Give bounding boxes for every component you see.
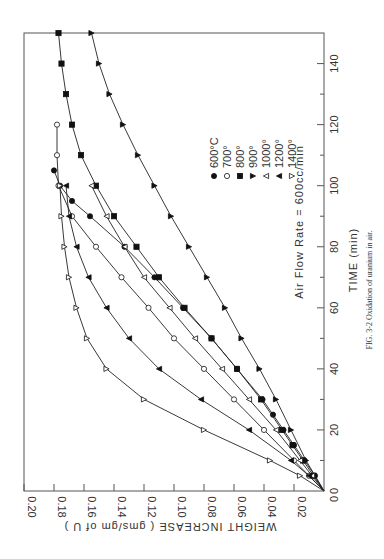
legend: 600°C700°800°900°1000°1200°1400° — [208, 137, 298, 178]
x-tick-label: 80 — [328, 241, 340, 253]
legend-label: 800° — [234, 145, 246, 168]
plot-frame — [24, 33, 324, 491]
legend-item: 700° — [221, 145, 233, 178]
x-tick-label: 40 — [328, 363, 340, 375]
series-800-deg — [56, 30, 324, 491]
x-tick-label: 0 — [328, 488, 340, 494]
legend-item: 800° — [234, 145, 246, 178]
y-tick-label: 0.12 — [146, 496, 158, 517]
legend-label: 900° — [247, 145, 259, 168]
air-flow-annotation: Air Flow Rate = 600cc/min — [293, 145, 305, 299]
legend-label: 1200° — [273, 139, 285, 168]
legend-item: 900° — [247, 145, 259, 178]
legend-label: 600°C — [208, 137, 220, 168]
legend-item: 600°C — [208, 137, 220, 178]
x-tick-label: 120 — [328, 115, 340, 133]
y-tick-label: 0.02 — [296, 496, 308, 517]
oxidation-chart: 0204060801001201400.020.040.060.080.100.… — [0, 0, 384, 559]
legend-label: 700° — [221, 145, 233, 168]
y-tick-label: 0.16 — [86, 496, 98, 517]
x-axis-title: TIME (min) — [347, 228, 359, 292]
x-tick-label: 60 — [328, 302, 340, 314]
x-tick-label: 100 — [328, 177, 340, 195]
y-tick-label: 0.08 — [206, 496, 218, 517]
legend-item: 1200° — [273, 139, 285, 178]
x-tick-label: 140 — [328, 54, 340, 72]
y-tick-label: 0.04 — [266, 496, 278, 517]
series-1400-deg — [57, 183, 324, 491]
series-900-deg — [89, 30, 324, 491]
y-tick-label: 0.18 — [56, 496, 68, 517]
x-tick-label: 20 — [328, 424, 340, 436]
y-tick-label: 0.10 — [176, 496, 188, 517]
series-700-deg — [54, 122, 324, 491]
legend-label: 1000° — [260, 139, 272, 168]
figure-caption: FIG. 3-2 Oxidation of uranium in air. — [365, 230, 374, 349]
y-axis-title: WEIGHT INCREASE ( gms/gm of U ) — [64, 521, 277, 533]
legend-item: 1000° — [260, 139, 272, 178]
data-series — [51, 30, 324, 491]
y-tick-label: 0.06 — [236, 496, 248, 517]
y-tick-label: 0.20 — [26, 496, 38, 517]
y-tick-label: 0.14 — [116, 496, 128, 517]
origin-label: 0 — [328, 496, 340, 502]
